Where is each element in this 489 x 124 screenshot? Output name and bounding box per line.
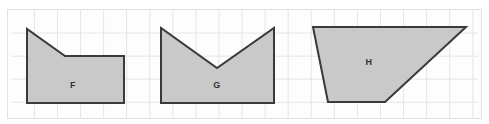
shape-f-label: F (70, 80, 76, 90)
shape-h-label: H (366, 57, 373, 67)
shape-g-label: G (213, 80, 220, 90)
geometry-figure: FGH (0, 0, 489, 124)
shape-f[interactable] (27, 29, 124, 103)
shape-h[interactable] (313, 27, 466, 102)
shape-g[interactable] (161, 28, 274, 103)
shapes-layer (0, 0, 489, 124)
